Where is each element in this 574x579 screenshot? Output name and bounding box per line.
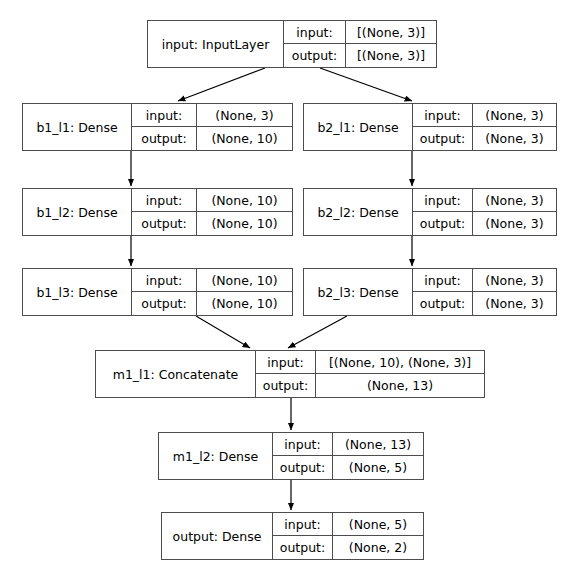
io-label-output-output: output: xyxy=(273,536,333,559)
io-row-input-b2_l2: input:(None, 3) xyxy=(413,189,556,212)
io-label-output-b1_l1: output: xyxy=(132,127,197,150)
edge-b1_l3-to-m1_l1 xyxy=(196,316,250,348)
node-io-table-m1_l2: input:(None, 13)output:(None, 5) xyxy=(273,433,423,479)
io-value-input-b2_l1: (None, 3) xyxy=(473,104,556,126)
io-value-output-m1_l2: (None, 5) xyxy=(333,456,423,479)
io-row-input-input: input:[(None, 3)] xyxy=(284,21,436,44)
node-io-table-b2_l2: input:(None, 3)output:(None, 3) xyxy=(413,189,556,235)
io-row-input-b2_l3: input:(None, 3) xyxy=(413,269,556,292)
io-value-output-b2_l3: (None, 3) xyxy=(473,292,556,315)
io-label-output-b2_l2: output: xyxy=(413,212,473,235)
io-value-input-b1_l3: (None, 10) xyxy=(197,269,292,291)
io-row-output-b2_l3: output:(None, 3) xyxy=(413,292,556,315)
io-value-input-b2_l3: (None, 3) xyxy=(473,269,556,291)
node-output[interactable]: output: Denseinput:(None, 5)output:(None… xyxy=(161,512,424,560)
io-label-input-b1_l3: input: xyxy=(132,269,197,291)
model-architecture-diagram: input: InputLayerinput:[(None, 3)]output… xyxy=(0,0,574,579)
io-label-input-m1_l1: input: xyxy=(256,351,316,373)
node-label-input: input: InputLayer xyxy=(148,21,284,67)
node-label-m1_l1: m1_l1: Concatenate xyxy=(96,351,256,397)
io-row-output-m1_l2: output:(None, 5) xyxy=(273,456,423,479)
io-value-output-b1_l3: (None, 10) xyxy=(197,292,292,315)
io-label-input-b2_l3: input: xyxy=(413,269,473,291)
io-label-input-input: input: xyxy=(284,21,346,43)
io-label-input-b1_l2: input: xyxy=(132,189,197,211)
node-m1_l2[interactable]: m1_l2: Denseinput:(None, 13)output:(None… xyxy=(158,432,424,480)
node-io-table-b1_l3: input:(None, 10)output:(None, 10) xyxy=(132,269,292,315)
node-label-b1_l2: b1_l2: Dense xyxy=(23,189,132,235)
io-row-input-b1_l3: input:(None, 10) xyxy=(132,269,292,292)
io-value-output-b1_l1: (None, 10) xyxy=(197,127,292,150)
io-row-input-m1_l1: input:[(None, 10), (None, 3)] xyxy=(256,351,484,374)
node-label-b1_l1: b1_l1: Dense xyxy=(23,104,132,150)
node-label-b2_l1: b2_l1: Dense xyxy=(304,104,413,150)
io-value-input-output: (None, 5) xyxy=(333,513,423,535)
io-row-input-output: input:(None, 5) xyxy=(273,513,423,536)
io-value-input-b1_l2: (None, 10) xyxy=(197,189,292,211)
io-row-output-b2_l1: output:(None, 3) xyxy=(413,127,556,150)
edge-b2_l3-to-m1_l1 xyxy=(288,316,347,348)
io-value-output-output: (None, 2) xyxy=(333,536,423,559)
io-row-output-b2_l2: output:(None, 3) xyxy=(413,212,556,235)
io-value-output-b2_l1: (None, 3) xyxy=(473,127,556,150)
node-label-output: output: Dense xyxy=(162,513,273,559)
node-label-m1_l2: m1_l2: Dense xyxy=(159,433,273,479)
io-value-output-b1_l2: (None, 10) xyxy=(197,212,292,235)
io-label-input-m1_l2: input: xyxy=(273,433,333,455)
io-label-output-m1_l1: output: xyxy=(256,374,316,397)
node-label-b2_l3: b2_l3: Dense xyxy=(304,269,413,315)
io-row-output-b1_l3: output:(None, 10) xyxy=(132,292,292,315)
node-label-b1_l3: b1_l3: Dense xyxy=(23,269,132,315)
node-io-table-b2_l1: input:(None, 3)output:(None, 3) xyxy=(413,104,556,150)
io-row-output-output: output:(None, 2) xyxy=(273,536,423,559)
edge-input-to-b1_l1 xyxy=(178,68,265,101)
io-value-output-m1_l1: (None, 13) xyxy=(316,374,484,397)
io-row-input-b2_l1: input:(None, 3) xyxy=(413,104,556,127)
node-b1_l2[interactable]: b1_l2: Denseinput:(None, 10)output:(None… xyxy=(22,188,293,236)
node-label-b2_l2: b2_l2: Dense xyxy=(304,189,413,235)
io-row-input-b1_l2: input:(None, 10) xyxy=(132,189,292,212)
io-value-input-m1_l1: [(None, 10), (None, 3)] xyxy=(316,351,484,373)
io-label-output-b1_l2: output: xyxy=(132,212,197,235)
io-label-output-b1_l3: output: xyxy=(132,292,197,315)
io-value-input-b1_l1: (None, 3) xyxy=(197,104,292,126)
node-io-table-b1_l2: input:(None, 10)output:(None, 10) xyxy=(132,189,292,235)
node-b2_l3[interactable]: b2_l3: Denseinput:(None, 3)output:(None,… xyxy=(303,268,557,316)
io-label-input-b1_l1: input: xyxy=(132,104,197,126)
node-m1_l1[interactable]: m1_l1: Concatenateinput:[(None, 10), (No… xyxy=(95,350,485,398)
io-value-input-b2_l2: (None, 3) xyxy=(473,189,556,211)
io-label-output-input: output: xyxy=(284,44,346,67)
node-b1_l3[interactable]: b1_l3: Denseinput:(None, 10)output:(None… xyxy=(22,268,293,316)
io-row-output-b1_l2: output:(None, 10) xyxy=(132,212,292,235)
node-io-table-output: input:(None, 5)output:(None, 2) xyxy=(273,513,423,559)
io-row-output-m1_l1: output:(None, 13) xyxy=(256,374,484,397)
node-io-table-b1_l1: input:(None, 3)output:(None, 10) xyxy=(132,104,292,150)
io-value-input-input: [(None, 3)] xyxy=(346,21,436,43)
io-value-output-input: [(None, 3)] xyxy=(346,44,436,67)
io-label-output-b2_l3: output: xyxy=(413,292,473,315)
node-b1_l1[interactable]: b1_l1: Denseinput:(None, 3)output:(None,… xyxy=(22,103,293,151)
io-row-input-b1_l1: input:(None, 3) xyxy=(132,104,292,127)
io-value-output-b2_l2: (None, 3) xyxy=(473,212,556,235)
node-b2_l2[interactable]: b2_l2: Denseinput:(None, 3)output:(None,… xyxy=(303,188,557,236)
io-label-input-output: input: xyxy=(273,513,333,535)
io-label-output-m1_l2: output: xyxy=(273,456,333,479)
io-row-input-m1_l2: input:(None, 13) xyxy=(273,433,423,456)
io-value-input-m1_l2: (None, 13) xyxy=(333,433,423,455)
edge-input-to-b2_l1 xyxy=(320,68,412,101)
node-io-table-b2_l3: input:(None, 3)output:(None, 3) xyxy=(413,269,556,315)
io-label-input-b2_l2: input: xyxy=(413,189,473,211)
io-row-output-input: output:[(None, 3)] xyxy=(284,44,436,67)
io-row-output-b1_l1: output:(None, 10) xyxy=(132,127,292,150)
io-label-output-b2_l1: output: xyxy=(413,127,473,150)
node-io-table-input: input:[(None, 3)]output:[(None, 3)] xyxy=(284,21,436,67)
node-b2_l1[interactable]: b2_l1: Denseinput:(None, 3)output:(None,… xyxy=(303,103,557,151)
io-label-input-b2_l1: input: xyxy=(413,104,473,126)
node-io-table-m1_l1: input:[(None, 10), (None, 3)]output:(Non… xyxy=(256,351,484,397)
node-input[interactable]: input: InputLayerinput:[(None, 3)]output… xyxy=(147,20,437,68)
